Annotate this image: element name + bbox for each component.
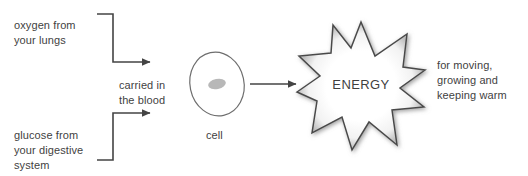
input-label-glucose: glucose from your digestive system	[14, 128, 83, 173]
input-label-oxygen: oxygen from your lungs	[14, 18, 76, 48]
diagram-canvas: oxygen from your lungs glucose from your…	[0, 0, 528, 176]
outputs-label: for moving, growing and keeping warm	[437, 58, 507, 103]
transport-label: carried in the blood	[119, 78, 165, 108]
connector-oxygen-to-blood	[97, 14, 150, 62]
energy-label: ENERGY	[297, 77, 425, 92]
connector-glucose-to-blood	[97, 113, 150, 160]
cell-label: cell	[206, 128, 223, 143]
